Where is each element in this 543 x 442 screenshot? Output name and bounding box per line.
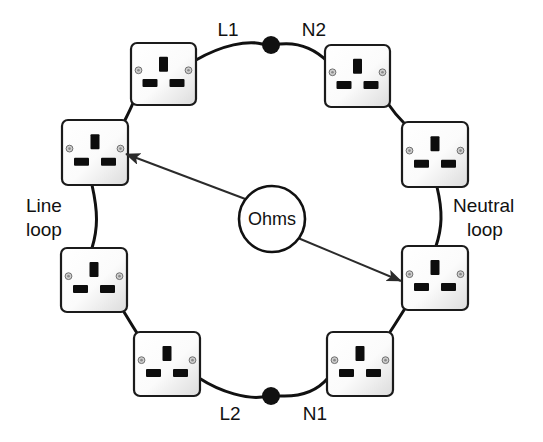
socket-faceplate (402, 246, 468, 310)
earth-slot (159, 57, 168, 72)
screw-slot-icon (459, 273, 462, 276)
earth-slot (163, 346, 172, 361)
screw-slot-icon (459, 149, 462, 152)
socket-bottom-right (327, 332, 393, 396)
neutral-slot (73, 285, 88, 293)
live-slot (441, 283, 456, 291)
screw-slot-icon (333, 359, 336, 362)
earth-slot (356, 346, 365, 361)
bottom-break (262, 387, 280, 405)
socket-faceplate (134, 332, 200, 396)
wire-top-left-to-dot (196, 43, 262, 60)
wire-dot-to-top-right (280, 44, 328, 62)
socket-upper-right (402, 122, 468, 187)
socket-upper-left (62, 120, 128, 185)
screw-slot-icon (140, 359, 143, 362)
screw-slot-icon (118, 275, 121, 278)
wire-topleft-to-upperleft (125, 103, 133, 120)
live-slot (441, 160, 456, 168)
socket-lower-right (402, 246, 468, 310)
socket-faceplate (325, 45, 390, 107)
live-slot (173, 369, 188, 377)
wire-topright-to-upperright (389, 105, 404, 123)
wire-upperright-neutral (436, 187, 441, 246)
socket-faceplate (402, 122, 468, 187)
conductor-label-n2: N2 (302, 19, 326, 40)
pointer-to-line-loop (126, 154, 248, 200)
wire-upperleft-line-loop (92, 185, 97, 248)
socket-bottom-left (134, 332, 200, 396)
screw-slot-icon (137, 69, 140, 72)
screw-slot-icon (331, 71, 334, 74)
neutral-slot (339, 369, 354, 377)
diagram-canvas: Ohms L1N2L2N1 LineloopNeutralloop (0, 0, 543, 442)
earth-slot (353, 59, 362, 74)
screw-slot-icon (67, 275, 70, 278)
socket-lower-left (61, 248, 127, 312)
socket-top-right (325, 45, 390, 107)
loop-label-line-loop: Lineloop (26, 195, 62, 240)
neutral-slot (414, 160, 429, 168)
screw-slot-icon (191, 359, 194, 362)
screw-slot-icon (68, 147, 71, 150)
earth-slot (431, 260, 440, 275)
wire-lowerright-to-bottom (390, 310, 404, 332)
live-slot (170, 79, 185, 87)
ohms-label: Ohms (248, 209, 296, 229)
live-slot (366, 369, 381, 377)
wire-lowerleft-to-bottom (124, 312, 137, 333)
screw-slot-icon (381, 71, 384, 74)
neutral-slot (146, 369, 161, 377)
ring-circuit-diagram: Ohms L1N2L2N1 LineloopNeutralloop (0, 0, 543, 442)
socket-faceplate (61, 248, 127, 312)
conductor-label-l1: L1 (217, 19, 238, 40)
socket-faceplate (131, 43, 196, 105)
loop-label-neutral-loop: Neutralloop (453, 195, 514, 240)
screw-slot-icon (408, 273, 411, 276)
conductor-label-n1: N1 (303, 403, 327, 424)
screw-slot-icon (408, 149, 411, 152)
live-slot (364, 81, 379, 89)
top-break (262, 36, 280, 54)
earth-slot (90, 262, 99, 277)
neutral-slot (414, 283, 429, 291)
socket-faceplate (62, 120, 128, 185)
wire-dot-to-bottomright (280, 378, 328, 396)
screw-slot-icon (119, 147, 122, 150)
screw-slot-icon (384, 359, 387, 362)
pointer-to-neutral-loop (298, 238, 401, 281)
screw-slot-icon (187, 69, 190, 72)
socket-top-left (131, 43, 196, 105)
socket-faceplate (327, 332, 393, 396)
conductor-label-l2: L2 (219, 403, 240, 424)
live-slot (100, 285, 115, 293)
neutral-slot (74, 158, 89, 166)
live-slot (101, 158, 116, 166)
wire-bottomleft-to-dot (199, 378, 262, 397)
neutral-slot (143, 79, 158, 87)
earth-slot (91, 134, 100, 149)
neutral-slot (337, 81, 352, 89)
earth-slot (431, 136, 440, 151)
ohms-meter: Ohms (239, 186, 305, 252)
